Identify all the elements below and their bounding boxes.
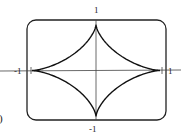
y-tick-label-bottom: -1 — [89, 124, 97, 134]
x-tick-label-right: 1 — [168, 66, 173, 76]
panel-label-fragment: ) — [0, 112, 3, 125]
y-tick-label-top: 1 — [94, 5, 99, 15]
astroid-plot: 1 -1 -1 1 ) — [0, 0, 181, 135]
x-tick-label-left: -1 — [14, 66, 22, 76]
